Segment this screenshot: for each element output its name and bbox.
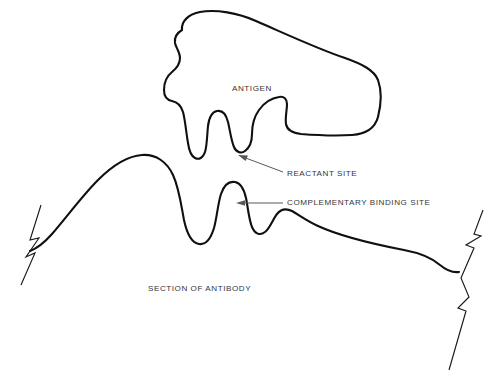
label-complementary-binding-site: COMPLEMENTARY BINDING SITE	[287, 198, 430, 207]
reactant-site-arrow-icon	[238, 155, 248, 161]
label-antigen: ANTIGEN	[232, 84, 272, 93]
antibody-outline	[30, 155, 459, 272]
left-break-mark-icon	[21, 205, 41, 285]
antigen-outline	[164, 11, 381, 159]
reactant-site-pointer	[238, 155, 283, 172]
label-section-of-antibody: SECTION OF ANTIBODY	[148, 284, 251, 293]
reactant-site-leader-line	[243, 157, 283, 172]
complementary-binding-site-pointer	[236, 200, 283, 206]
label-reactant-site: REACTANT SITE	[287, 169, 357, 178]
complementary-binding-site-arrow-icon	[236, 200, 245, 206]
right-break-mark-icon	[449, 210, 483, 370]
antigen-antibody-diagram: ANTIGEN REACTANT SITE COMPLEMENTARY BIND…	[0, 0, 494, 387]
diagram-canvas: ANTIGEN REACTANT SITE COMPLEMENTARY BIND…	[0, 0, 494, 387]
